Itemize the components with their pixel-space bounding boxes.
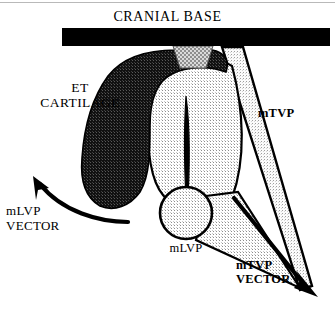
mlvp-muscle-circle <box>160 187 212 239</box>
anatomical-diagram-figure: CRANIAL BASE ET CARTILAGE mLVP VECTOR mL… <box>0 0 335 318</box>
label-mtvp-vector: mTVP VECTOR <box>236 259 290 287</box>
cartilage-attachment-block <box>173 46 213 68</box>
cranial-base-bar <box>62 28 330 46</box>
label-mlvp: mLVP <box>157 241 215 255</box>
label-mlvp-vector: mLVP VECTOR <box>6 204 60 233</box>
label-mtvp: mTVP <box>258 106 294 120</box>
page-title: CRANIAL BASE <box>0 9 335 25</box>
label-et-cartilage: ET CARTILAGE <box>28 80 132 110</box>
